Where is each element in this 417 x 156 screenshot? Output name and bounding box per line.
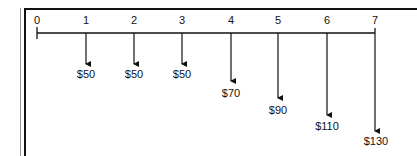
cash-flow-amount: $110 [315,120,339,132]
period-label: 1 [83,14,89,26]
period-label: 5 [275,14,281,26]
cash-flow-amount: $50 [173,68,191,80]
period-label: 6 [324,14,330,26]
period-label: 0 [34,14,40,26]
cash-flow-amount: $90 [269,104,287,116]
period-label: 4 [228,14,234,26]
period-label: 7 [372,14,378,26]
cash-flow-amount: $130 [364,135,388,147]
period-label: 2 [131,14,137,26]
cash-flow-amount: $50 [77,68,95,80]
cash-flow-diagram: 0 1 2 3 4 5 6 7 $50 $50 $50 $70 $90 $110… [0,0,417,156]
cash-flow-amount: $50 [125,68,143,80]
cash-flow-amount: $70 [222,87,240,99]
period-label: 3 [179,14,185,26]
